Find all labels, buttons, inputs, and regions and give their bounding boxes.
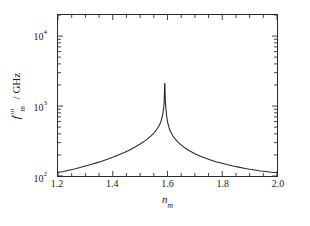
y-tick-label: 102: [34, 170, 48, 183]
x-axis-tick-labels: 1.21.41.61.82.0: [57, 178, 278, 192]
y-tick-mantissa: 10: [34, 173, 44, 184]
x-tick-label: 1.2: [51, 178, 64, 190]
major-tick-marks: [58, 15, 277, 176]
x-axis-label: nm: [57, 193, 278, 208]
series-line-f-cut: [58, 83, 277, 172]
x-axis-label-subscript: m: [168, 201, 173, 210]
minor-tick-marks: [58, 15, 277, 176]
y-tick-label: 103: [34, 100, 48, 113]
y-tick-mantissa: 10: [34, 102, 44, 113]
x-tick-label: 1.6: [161, 178, 174, 190]
x-tick-label: 1.4: [106, 178, 119, 190]
y-tick-exponent: 4: [44, 29, 48, 37]
data-curve-svg: [58, 15, 277, 176]
y-axis-tick-labels: 102103104: [0, 14, 55, 177]
y-tick-mantissa: 10: [34, 31, 44, 42]
x-axis-label-symbol: n: [162, 193, 168, 205]
y-tick-exponent: 2: [44, 170, 48, 178]
plot-area: [57, 14, 278, 177]
x-tick-label: 2.0: [272, 178, 285, 190]
y-tick-exponent: 3: [44, 100, 48, 108]
x-tick-label: 1.8: [217, 178, 230, 190]
y-tick-label: 104: [34, 29, 48, 42]
figure-container: fcutm / GHz 102103104 1.21.41.61.82.0 nm: [0, 0, 310, 226]
